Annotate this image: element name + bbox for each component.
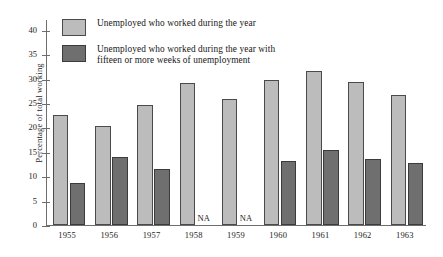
- bar-1963-series1: [391, 95, 407, 225]
- bar-1956-series1: [95, 126, 111, 225]
- x-tick-label-1963: 1963: [384, 230, 426, 240]
- bar-group-1962: [348, 20, 381, 225]
- y-tick-label: 35: [15, 49, 37, 60]
- bar-1963-series2: [408, 163, 424, 225]
- bar-1960-series2: [281, 161, 297, 225]
- legend-label-light: Unemployed who worked during the year: [97, 18, 256, 29]
- na-annotation: NA: [198, 213, 211, 223]
- y-tick-label: 15: [15, 147, 37, 158]
- x-tick-label-1961: 1961: [299, 230, 341, 240]
- bar-1962-series2: [365, 159, 381, 225]
- y-tick-label: 40: [15, 25, 37, 36]
- bar-1961-series2: [323, 150, 339, 225]
- light-gray-swatch-icon: [62, 19, 86, 36]
- bar-1962-series1: [348, 82, 364, 225]
- bar-group-1963: [391, 20, 424, 225]
- y-tick-label: 10: [15, 171, 37, 182]
- bar-1955-series1: [53, 115, 69, 225]
- y-tick-0: 0: [42, 226, 50, 227]
- y-tick-label: 20: [15, 122, 37, 133]
- bar-1957-series1: [137, 105, 153, 225]
- x-tick-label-1955: 1955: [46, 230, 88, 240]
- x-tick-label-1959: 1959: [215, 230, 257, 240]
- bar-1955-series2: [70, 183, 86, 225]
- x-tick-label-1957: 1957: [130, 230, 172, 240]
- bar-1957-series2: [154, 169, 170, 225]
- bar-1956-series2: [112, 157, 128, 225]
- na-annotation: NA: [240, 213, 253, 223]
- legend: Unemployed who worked during the year Un…: [62, 18, 275, 73]
- x-tick-label-1962: 1962: [342, 230, 384, 240]
- y-tick-label: 25: [15, 98, 37, 109]
- x-tick-label-1956: 1956: [88, 230, 130, 240]
- bar-1961-series1: [306, 71, 322, 225]
- y-tick-label: 30: [15, 74, 37, 85]
- x-tick-label-1958: 1958: [173, 230, 215, 240]
- legend-item-dark: Unemployed who worked during the year wi…: [62, 44, 275, 65]
- y-tick-label: 0: [15, 220, 37, 231]
- bar-1959-series1: [222, 99, 238, 225]
- bar-chart: Percentage of total working 051015202530…: [0, 0, 443, 257]
- dark-gray-swatch-icon: [62, 45, 86, 62]
- bar-group-1961: [306, 20, 339, 225]
- x-tick-label-1960: 1960: [257, 230, 299, 240]
- bar-1958-series1: [180, 83, 196, 225]
- legend-item-light: Unemployed who worked during the year: [62, 18, 275, 36]
- x-axis-labels: 195519561957195819591960196119621963: [46, 230, 426, 250]
- bar-1960-series1: [264, 80, 280, 225]
- y-tick-label: 5: [15, 196, 37, 207]
- legend-label-dark: Unemployed who worked during the year wi…: [97, 44, 275, 65]
